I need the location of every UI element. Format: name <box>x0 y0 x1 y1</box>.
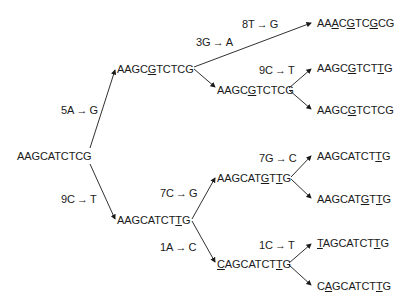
label-to: C <box>289 152 297 164</box>
label-to: T <box>288 239 295 251</box>
seq-part: G <box>384 62 392 74</box>
seq-part: T <box>369 193 376 205</box>
node-n2: AAGCATCTTG <box>117 214 190 226</box>
mutation-label-1C-T: 1C→T <box>259 239 295 251</box>
arrow-right-icon: → <box>77 193 88 205</box>
arrow-right-icon: → <box>213 36 224 48</box>
node-n1b2: AAGCGTCTCG <box>317 104 394 116</box>
label-to: C <box>188 241 196 253</box>
label-from: 1C <box>259 239 273 251</box>
edge-n2a-n2a2 <box>291 179 311 198</box>
seq-part: C <box>339 17 347 29</box>
seq-part: G <box>383 193 391 205</box>
mutated-base: G <box>148 63 156 75</box>
label-to: A <box>226 36 233 48</box>
label-to: T <box>90 193 97 205</box>
seq-part: TCTCG <box>256 84 293 96</box>
seq-part: CG <box>378 17 394 29</box>
mutation-label-3G-A: 3G→A <box>196 36 233 48</box>
arrow-right-icon: → <box>175 241 186 253</box>
mutated-base: G <box>370 17 378 29</box>
mutated-base: C <box>217 258 225 270</box>
node-n1a: AAACGTCGCG <box>317 17 394 29</box>
arrow-right-icon: → <box>257 18 268 30</box>
node-root: AAGCATCTCG <box>17 150 92 162</box>
mutated-base: T <box>175 214 182 226</box>
seq-part: AGCATCT <box>323 237 374 249</box>
seq-part: AAGC <box>317 104 348 116</box>
label-to: T <box>288 64 295 76</box>
seq-part: GCATCT <box>332 280 376 292</box>
mutation-label-1A-C: 1A→C <box>160 241 196 253</box>
seq-part: AAGC <box>117 63 148 75</box>
seq-part: TCT <box>356 62 377 74</box>
arrow-right-icon: → <box>76 104 87 116</box>
mutated-base: T <box>375 150 382 162</box>
seq-part: G <box>182 214 190 226</box>
label-from: 8T <box>242 18 255 30</box>
mutation-label-8T-G: 8T→G <box>242 18 278 30</box>
arrow-right-icon: → <box>276 152 287 164</box>
edge-n2b-n2b2 <box>289 265 311 285</box>
label-from: 7C <box>160 187 174 199</box>
node-n2b2: CAGCATCTTG <box>317 280 391 292</box>
node-n2b1: TAGCATCTTG <box>317 237 389 249</box>
label-to: G <box>89 104 98 116</box>
mutation-label-7G-C: 7G→C <box>259 152 297 164</box>
label-from: 1A <box>160 241 173 253</box>
label-from: 3G <box>196 36 211 48</box>
node-n2a1: AAGCATCTTG <box>317 150 390 162</box>
mutated-base: T <box>276 172 283 184</box>
arrow-right-icon: → <box>176 187 187 199</box>
seq-part: AGCATCT <box>225 258 276 270</box>
mutation-label-5A-G: 5A→G <box>61 104 98 116</box>
seq-part: G <box>283 172 291 184</box>
node-root-sequence: AAGCATCTCG <box>17 150 92 162</box>
seq-part: G <box>283 258 291 270</box>
arrow-right-icon: → <box>275 64 286 76</box>
label-from: 9C <box>61 193 75 205</box>
node-n2a2: AAGCATGTTG <box>317 193 391 205</box>
seq-part: AAGC <box>317 62 348 74</box>
edge-root-n2 <box>90 164 115 219</box>
mutated-base: T <box>276 258 283 270</box>
mutated-base: G <box>347 17 355 29</box>
seq-part: TCTCG <box>156 63 193 75</box>
node-n2b: CAGCATCTTG <box>217 258 291 270</box>
mutated-base: T <box>376 193 383 205</box>
mutated-base: G <box>348 104 356 116</box>
mutated-base: T <box>377 62 384 74</box>
label-from: 7G <box>259 152 274 164</box>
seq-part: TC <box>355 17 369 29</box>
label-to: G <box>270 18 279 30</box>
seq-part: G <box>380 237 388 249</box>
mutation-label-9C-T: 9C→T <box>61 193 97 205</box>
seq-part: AAGCATCT <box>317 150 375 162</box>
mutation-label-7C-G: 7C→G <box>160 187 198 199</box>
seq-part: T <box>269 172 276 184</box>
seq-part: TCTCG <box>356 104 393 116</box>
arrow-right-icon: → <box>275 239 286 251</box>
mutated-base: G <box>348 62 356 74</box>
seq-part: G <box>382 150 390 162</box>
node-n1b1: AAGCGTCTTG <box>317 62 392 74</box>
edge-n1-n1b <box>194 69 215 87</box>
node-n2a: AAGCATGTTG <box>217 172 291 184</box>
seq-part: AAGCATCT <box>117 214 175 226</box>
mutated-base: A <box>331 17 338 29</box>
node-n1: AAGCGTCTCG <box>117 63 194 75</box>
seq-part: C <box>317 280 325 292</box>
seq-part: AAGCAT <box>217 172 261 184</box>
mutation-label-9C-T-2: 9C→T <box>259 64 295 76</box>
label-from: 5A <box>61 104 74 116</box>
seq-part: AA <box>317 17 331 29</box>
mutated-base: G <box>248 84 256 96</box>
mutated-base: T <box>376 280 383 292</box>
seq-part: AAGC <box>217 84 248 96</box>
seq-part: AAGCAT <box>317 193 361 205</box>
node-n1b: AAGCGTCTCG <box>217 84 294 96</box>
seq-part: G <box>383 280 391 292</box>
label-to: G <box>189 187 198 199</box>
label-from: 9C <box>259 64 273 76</box>
